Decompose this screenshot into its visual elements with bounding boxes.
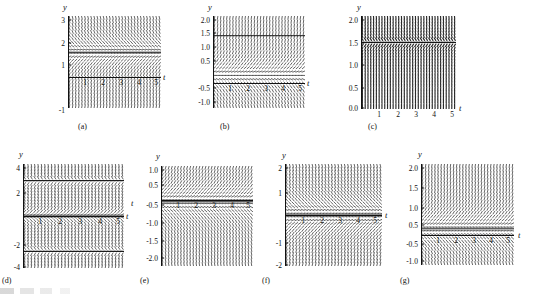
x-tick-label: 4 xyxy=(487,237,495,245)
y-tick-label: -1.5 xyxy=(135,238,158,246)
axes-c xyxy=(361,16,456,109)
panel-caption-a: (a) xyxy=(78,123,87,131)
plot-area-f xyxy=(285,164,382,266)
y-tick-label: 0.5 xyxy=(135,182,158,190)
x-tick-label: 1 xyxy=(81,79,89,87)
x-tick-label: 3 xyxy=(470,237,478,245)
y-tick-label: -1.0 xyxy=(135,220,158,228)
x-tick-label: 2 xyxy=(394,111,402,119)
x-tick-label: 3 xyxy=(412,111,420,119)
slope-field-b xyxy=(213,16,305,108)
x-tick-label: 5 xyxy=(152,79,160,87)
x-tick-label: 4 xyxy=(96,218,104,226)
axes-d xyxy=(23,164,124,268)
panel-caption-f: (f) xyxy=(262,277,270,285)
panel-caption-d: (d) xyxy=(2,277,11,285)
y-tick-label: 1.0 xyxy=(135,167,158,175)
panel-caption-e: (e) xyxy=(140,277,149,285)
y-tick-label: 1.5 xyxy=(335,40,358,48)
y-tick-label: 1.5 xyxy=(187,30,210,38)
x-axis-label-b: t xyxy=(307,79,309,88)
y-tick-label: 2.0 xyxy=(187,17,210,25)
y-tick-label: 0.5 xyxy=(187,58,210,66)
x-tick-label: 3 xyxy=(262,85,270,93)
x-axis-label-e: t xyxy=(131,199,133,208)
y-tick-label: -1.0 xyxy=(187,99,210,107)
y-tick-label: 2 xyxy=(259,165,282,173)
y-tick-label: 1.0 xyxy=(335,62,358,70)
y-tick-label: -0.5 xyxy=(187,85,210,93)
x-tick-label: 2 xyxy=(452,237,460,245)
y-axis-label-d: y xyxy=(19,150,23,159)
x-tick-label: 3 xyxy=(210,202,218,210)
y-tick-label: -1.0 xyxy=(395,258,418,266)
x-tick-label: 3 xyxy=(76,218,84,226)
y-tick-label: -1 xyxy=(259,240,282,248)
y-tick-label: 1 xyxy=(259,190,282,198)
x-tick-label: 3 xyxy=(117,79,125,87)
plot-area-b xyxy=(213,16,305,108)
panel-caption-c: (c) xyxy=(368,123,377,131)
y-tick-label: 2.0 xyxy=(395,165,418,173)
x-tick-label: 2 xyxy=(244,85,252,93)
scan-artifact xyxy=(0,288,120,294)
plot-area-g xyxy=(421,164,514,265)
plot-area-d xyxy=(23,164,124,268)
x-tick-label: 2 xyxy=(56,218,64,226)
y-tick-label: 1 xyxy=(42,62,65,70)
y-tick-label: 0.5 xyxy=(395,222,418,230)
x-tick-label: 2 xyxy=(192,202,200,210)
y-tick-label: -0.5 xyxy=(135,202,158,210)
y-tick-label: 1.5 xyxy=(395,185,418,193)
x-tick-label: 5 xyxy=(114,218,122,226)
x-tick-label: 4 xyxy=(279,85,287,93)
y-tick-label: 2.0 xyxy=(335,17,358,25)
y-tick-label: -4 xyxy=(0,264,20,272)
x-tick-label: 2 xyxy=(318,217,326,225)
panel-caption-g: (g) xyxy=(400,277,409,285)
x-tick-label: 1 xyxy=(226,85,234,93)
x-tick-label: 4 xyxy=(228,202,236,210)
x-tick-label: 4 xyxy=(354,217,362,225)
x-tick-label: 1 xyxy=(434,237,442,245)
x-axis-label-a: t xyxy=(163,73,165,82)
x-axis-label-g: t xyxy=(518,231,520,240)
slope-field-e xyxy=(161,166,253,266)
y-tick-label: 4 xyxy=(0,165,20,173)
x-axis-label-d: t xyxy=(126,212,128,221)
x-tick-label: 5 xyxy=(244,202,252,210)
y-axis-label-a: y xyxy=(63,3,67,12)
x-tick-label: 4 xyxy=(135,79,143,87)
x-tick-label: 1 xyxy=(36,218,44,226)
x-tick-label: 3 xyxy=(336,217,344,225)
slope-field-a xyxy=(68,16,161,108)
x-tick-label: 1 xyxy=(299,217,307,225)
x-tick-label: 5 xyxy=(296,85,304,93)
y-tick-label: -2 xyxy=(0,242,20,250)
x-tick-label: 1 xyxy=(174,202,182,210)
x-axis-label-c: t xyxy=(459,104,461,113)
x-axis-label-f: t xyxy=(385,211,387,220)
slope-field-g xyxy=(421,164,514,265)
direction-field-figure: yt321-112345(a)yt2.01.51.00.5-0.5-1.0123… xyxy=(0,0,539,297)
y-tick-label: 2 xyxy=(42,40,65,48)
y-axis-label-c: y xyxy=(357,3,361,12)
y-tick-label: 0.5 xyxy=(335,85,358,93)
x-tick-label: 5 xyxy=(448,111,456,119)
plot-area-a xyxy=(68,16,161,108)
y-axis-label-f: y xyxy=(282,151,286,160)
y-tick-label: 3 xyxy=(42,17,65,25)
x-tick-label: 2 xyxy=(99,79,107,87)
x-tick-label: 1 xyxy=(375,111,383,119)
y-tick-label: 0.0 xyxy=(335,105,358,113)
y-tick-label: -0.5 xyxy=(395,241,418,249)
plot-area-e xyxy=(161,166,253,266)
y-tick-label: 1.0 xyxy=(395,205,418,213)
y-tick-label: -2 xyxy=(259,262,282,270)
y-tick-label: -1 xyxy=(42,107,65,115)
slope-field-d xyxy=(23,164,124,268)
x-tick-label: 5 xyxy=(504,237,512,245)
plot-area-c xyxy=(361,16,456,109)
y-axis-label-g: y xyxy=(418,150,422,159)
x-tick-label: 4 xyxy=(430,111,438,119)
